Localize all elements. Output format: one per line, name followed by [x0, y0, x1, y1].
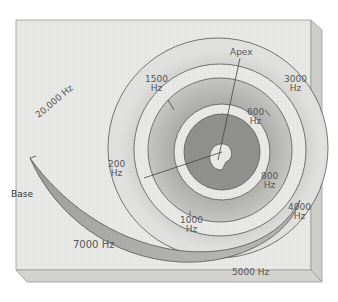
freq-label-1500: 1500 Hz	[145, 75, 168, 93]
base-label: Base	[11, 190, 33, 199]
freq-label-4000: 4000 Hz	[288, 203, 311, 221]
freq-label-5000: 5000 Hz	[232, 268, 269, 277]
freq-label-3000: 3000 Hz	[284, 75, 307, 93]
apex-label: Apex	[230, 48, 253, 57]
freq-label-600: 600 Hz	[247, 108, 264, 126]
freq-label-200: 200 Hz	[108, 160, 125, 178]
cochlea-diagram: Apex Base 20,000 Hz 1500 Hz 3000 Hz 600 …	[0, 0, 338, 302]
freq-label-1000: 1000 Hz	[180, 216, 203, 234]
freq-label-800: 800 Hz	[261, 172, 278, 190]
cochlea-illustration	[0, 0, 338, 302]
freq-label-7000: 7000 Hz	[73, 240, 114, 249]
